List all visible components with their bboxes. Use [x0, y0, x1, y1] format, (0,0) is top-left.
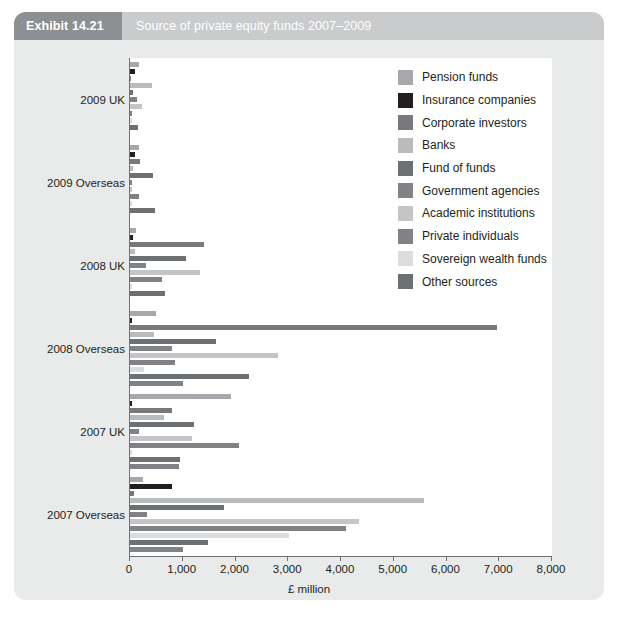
y-axis-category-labels: 2009 UK2009 Overseas2008 UK2008 Overseas…: [0, 0, 125, 619]
bar: [130, 505, 224, 510]
bar: [130, 201, 132, 206]
bar: [130, 443, 239, 448]
legend-swatch-icon: [398, 115, 413, 130]
bar: [130, 208, 155, 213]
bar: [130, 332, 154, 337]
x-axis-tick: [182, 556, 183, 561]
legend-swatch-icon: [398, 93, 413, 108]
bar: [130, 346, 172, 351]
bar: [130, 152, 135, 157]
legend-item[interactable]: Insurance companies: [398, 89, 558, 112]
bar: [130, 484, 172, 489]
x-axis-tick-label: 7,000: [484, 563, 513, 575]
legend-item[interactable]: Private individuals: [398, 225, 558, 248]
bar: [130, 401, 132, 406]
legend-item[interactable]: Fund of funds: [398, 157, 558, 180]
bar: [130, 125, 138, 130]
bar: [130, 104, 142, 109]
bar: [130, 477, 143, 482]
bar: [130, 353, 278, 358]
bar: [130, 249, 135, 254]
bar: [130, 270, 200, 275]
bar: [130, 235, 133, 240]
bar: [130, 228, 136, 233]
bar: [130, 90, 133, 95]
legend-swatch-icon: [398, 161, 413, 176]
bar: [130, 360, 175, 365]
bar: [130, 194, 139, 199]
x-axis-tick: [393, 556, 394, 561]
bar: [130, 180, 132, 185]
bar: [130, 408, 172, 413]
legend-item[interactable]: Government agencies: [398, 179, 558, 202]
y-axis-label: 2008 Overseas: [3, 343, 125, 355]
bar: [130, 547, 183, 552]
bar: [130, 97, 137, 102]
legend-swatch-icon: [398, 229, 413, 244]
legend-item-label: Corporate investors: [413, 116, 527, 130]
bar: [130, 242, 204, 247]
bar: [130, 145, 139, 150]
x-axis-tick: [287, 556, 288, 561]
legend-item-label: Other sources: [413, 275, 497, 289]
legend-item[interactable]: Banks: [398, 134, 558, 157]
bar: [130, 311, 156, 316]
x-axis-tick: [235, 556, 236, 561]
legend-item-label: Government agencies: [413, 184, 539, 198]
legend-swatch-icon: [398, 183, 413, 198]
x-axis-tick-label: 5,000: [378, 563, 407, 575]
bar: [130, 491, 134, 496]
bar: [130, 415, 164, 420]
x-axis-tick-label: 6,000: [431, 563, 460, 575]
legend-item[interactable]: Sovereign wealth funds: [398, 248, 558, 271]
x-axis-tick-label: 1,000: [167, 563, 196, 575]
y-axis-label: 2007 UK: [3, 426, 125, 438]
bar: [130, 76, 131, 81]
bar: [130, 173, 153, 178]
bar: [130, 83, 152, 88]
bar: [130, 512, 147, 517]
legend-item-label: Banks: [413, 138, 455, 152]
legend-swatch-icon: [398, 138, 413, 153]
bar: [130, 381, 183, 386]
legend-swatch-icon: [398, 251, 413, 266]
legend-item[interactable]: Corporate investors: [398, 111, 558, 134]
y-axis-label: 2009 Overseas: [3, 177, 125, 189]
x-axis-tick: [129, 556, 130, 561]
bar: [130, 159, 140, 164]
bar: [130, 533, 289, 538]
legend-item[interactable]: Other sources: [398, 270, 558, 293]
bar: [130, 256, 186, 261]
legend-item-label: Fund of funds: [413, 161, 495, 175]
legend-swatch-icon: [398, 70, 413, 85]
bar: [130, 436, 192, 441]
chart-legend: Pension fundsInsurance companiesCorporat…: [398, 66, 558, 293]
y-axis-label: 2008 UK: [3, 260, 125, 272]
bar: [130, 325, 497, 330]
legend-swatch-icon: [398, 274, 413, 289]
bar: [130, 62, 139, 67]
x-axis-tick-label: 4,000: [326, 563, 355, 575]
bar: [130, 166, 133, 171]
bar: [130, 457, 180, 462]
bar: [130, 277, 162, 282]
legend-item[interactable]: Academic institutions: [398, 202, 558, 225]
bar: [130, 450, 132, 455]
bar: [130, 318, 132, 323]
legend-item[interactable]: Pension funds: [398, 66, 558, 89]
bar: [130, 69, 135, 74]
bar: [130, 498, 424, 503]
y-axis-label: 2007 Overseas: [3, 509, 125, 521]
bar: [130, 519, 359, 524]
x-axis-tick-label: 0: [126, 563, 132, 575]
x-axis-tick: [446, 556, 447, 561]
bar: [130, 291, 165, 296]
legend-item-label: Private individuals: [413, 229, 519, 243]
bar: [130, 187, 132, 192]
bar: [130, 464, 179, 469]
bar: [130, 526, 346, 531]
bar: [130, 263, 146, 268]
x-axis-tick: [340, 556, 341, 561]
x-axis-tick-label: 2,000: [220, 563, 249, 575]
legend-item-label: Insurance companies: [413, 93, 536, 107]
